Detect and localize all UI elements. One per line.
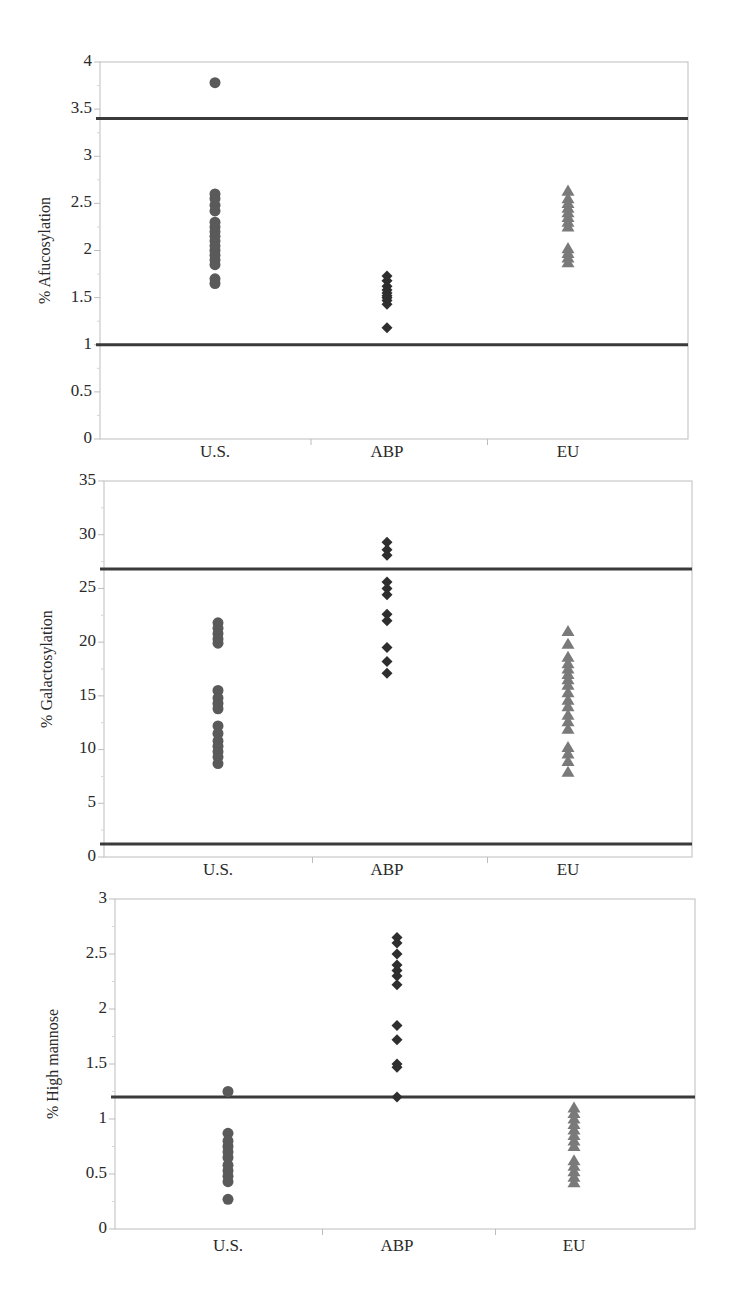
y-tick-label: 5: [88, 792, 97, 811]
data-point-diamond: [392, 1059, 403, 1070]
y-tick-label: 1.5: [71, 287, 92, 306]
data-point-triangle: [562, 747, 575, 758]
y-tick-label: 3: [84, 145, 93, 164]
data-point-circle: [213, 728, 224, 739]
afucosylation-plot: 00.511.522.533.54U.S.ABPEU% Afucosylatio…: [0, 0, 730, 465]
y-tick-label: 0: [88, 846, 97, 865]
data-point-circle: [213, 741, 224, 752]
data-point-diamond: [382, 576, 393, 587]
data-point-diamond: [382, 609, 393, 620]
data-point-diamond: [392, 938, 403, 949]
data-point-circle: [223, 1160, 234, 1171]
data-point-diamond: [392, 949, 403, 960]
data-point-triangle: [562, 625, 575, 636]
x-category-label: U.S.: [213, 1236, 243, 1255]
y-axis-label: % Afucosylation: [36, 197, 54, 304]
data-point-circle: [213, 617, 224, 628]
data-point-diamond: [382, 615, 393, 626]
data-point-diamond: [382, 642, 393, 653]
data-point-circle: [213, 693, 224, 704]
data-point-circle: [223, 1171, 234, 1182]
y-tick-label: 2.5: [86, 943, 107, 962]
data-point-triangle: [568, 1160, 581, 1171]
data-point-circle: [213, 720, 224, 731]
data-point-circle: [213, 752, 224, 763]
data-point-circle: [213, 685, 224, 696]
data-point-circle: [213, 735, 224, 746]
data-point-diamond: [392, 965, 403, 976]
data-point-diamond: [382, 544, 393, 555]
data-point-diamond: [382, 656, 393, 667]
data-point-diamond: [392, 1034, 403, 1045]
data-point-circle: [223, 1141, 234, 1152]
data-point-triangle: [562, 700, 575, 711]
y-tick-label: 0.5: [71, 381, 92, 400]
data-point-circle: [223, 1176, 234, 1187]
y-tick-label: 1.5: [86, 1053, 107, 1072]
data-point-diamond: [382, 589, 393, 600]
data-point-triangle: [568, 1165, 581, 1176]
data-point-circle: [223, 1086, 234, 1097]
data-point-diamond: [392, 960, 403, 971]
data-point-circle: [223, 1152, 234, 1163]
x-category-label: U.S.: [203, 860, 233, 879]
data-point-triangle: [562, 715, 575, 726]
data-point-diamond: [392, 971, 403, 982]
data-point-triangle: [562, 723, 575, 734]
afucosylation-chart: 00.511.522.533.54U.S.ABPEU% Afucosylatio…: [0, 0, 730, 465]
data-point-circle: [223, 1165, 234, 1176]
y-tick-label: 3.5: [71, 98, 92, 117]
data-point-circle: [213, 633, 224, 644]
data-point-triangle: [562, 668, 575, 679]
data-point-circle: [210, 278, 221, 289]
y-axis-label: % High mannose: [44, 1009, 62, 1119]
y-tick-label: 35: [79, 470, 96, 489]
data-point-circle: [213, 746, 224, 757]
y-tick-label: 25: [79, 577, 96, 596]
data-point-triangle: [568, 1102, 581, 1113]
data-point-triangle: [562, 657, 575, 668]
data-point-triangle: [562, 663, 575, 674]
data-point-diamond: [392, 979, 403, 990]
data-point-diamond: [392, 1092, 403, 1103]
plot-frame: [104, 481, 692, 857]
y-tick-label: 3: [99, 888, 108, 907]
data-point-circle: [213, 623, 224, 634]
y-axis-label: % Galactosylation: [38, 610, 56, 728]
y-tick-label: 0.5: [86, 1163, 107, 1182]
data-point-diamond: [392, 932, 403, 943]
data-point-circle: [223, 1194, 234, 1205]
data-point-triangle: [568, 1135, 581, 1146]
data-point-circle: [213, 703, 224, 714]
data-point-circle: [223, 1128, 234, 1139]
data-point-triangle: [568, 1107, 581, 1118]
data-point-triangle: [562, 755, 575, 766]
x-category-label: EU: [557, 442, 580, 461]
y-tick-label: 0: [84, 428, 93, 447]
data-point-circle: [210, 259, 221, 270]
data-point-triangle: [568, 1154, 581, 1165]
y-tick-label: 15: [79, 685, 96, 704]
data-point-circle: [213, 628, 224, 639]
data-point-circle: [223, 1136, 234, 1147]
data-point-triangle: [562, 709, 575, 720]
x-category-label: EU: [557, 860, 580, 879]
x-category-label: EU: [563, 1236, 586, 1255]
data-point-diamond: [392, 1062, 403, 1073]
y-tick-label: 2: [99, 998, 108, 1017]
data-point-diamond: [382, 322, 393, 333]
data-point-triangle: [562, 638, 575, 649]
data-point-triangle: [568, 1171, 581, 1182]
data-point-triangle: [562, 673, 575, 684]
data-point-triangle: [568, 1113, 581, 1124]
data-point-triangle: [568, 1176, 581, 1187]
y-tick-label: 10: [79, 738, 96, 757]
data-point-diamond: [392, 1020, 403, 1031]
plot-frame: [115, 899, 695, 1229]
data-point-triangle: [562, 741, 575, 752]
x-category-label: U.S.: [200, 442, 230, 461]
data-point-triangle: [568, 1124, 581, 1135]
y-tick-label: 2.5: [71, 192, 92, 211]
x-category-label: ABP: [380, 1236, 413, 1255]
data-point-diamond: [382, 583, 393, 594]
